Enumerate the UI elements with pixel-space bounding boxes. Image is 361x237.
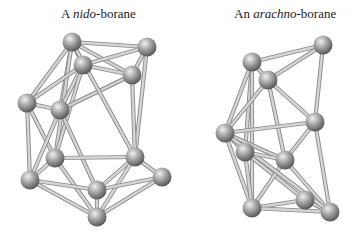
bonds-layer [27, 42, 330, 217]
boron-atom [51, 101, 70, 120]
boron-atom [314, 36, 333, 55]
boron-atom [21, 171, 40, 190]
bond-highlight [60, 110, 97, 190]
borane-structures-diagram [0, 0, 361, 237]
boron-atom [276, 151, 295, 170]
bond-highlight [55, 157, 135, 158]
boron-atom [88, 208, 107, 227]
boron-atom [296, 191, 315, 210]
boron-atom [216, 124, 235, 143]
boron-atom [138, 38, 157, 57]
bond-highlight [225, 122, 315, 133]
boron-atom [63, 33, 82, 52]
boron-atom [18, 94, 37, 113]
boron-atom [126, 148, 145, 167]
boron-atom [236, 143, 255, 162]
boron-atom [74, 56, 93, 75]
bond-highlight [315, 45, 323, 122]
boron-atom [123, 66, 142, 85]
boron-atom [243, 53, 262, 72]
boron-atom [321, 203, 340, 222]
boron-atom [88, 181, 107, 200]
boron-atom [306, 113, 325, 132]
boron-atom [46, 149, 65, 168]
boron-atom [153, 168, 172, 187]
boron-atom [243, 199, 262, 218]
boron-atom [259, 71, 278, 90]
